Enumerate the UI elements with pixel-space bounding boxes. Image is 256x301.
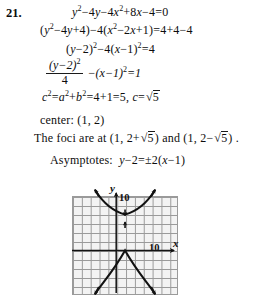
token-rparen-2: ) [228, 131, 232, 145]
token-four-6: 4 [187, 23, 193, 37]
token-minus: − [206, 131, 213, 145]
token-equals: = [127, 66, 135, 80]
token-four-2: 4 [149, 42, 155, 56]
radical-sign: √ [146, 90, 153, 104]
sqrt-5-b: √5 [213, 131, 228, 146]
token-minus: − [54, 23, 61, 37]
token-minus: − [125, 153, 132, 167]
equation-line-foci: The foci are at (1, 2+√5) and (1, 2−√5) … [34, 131, 239, 146]
sqrt-5: √5 [145, 90, 160, 105]
token-minus-3: − [105, 66, 113, 80]
token-zero: 0 [162, 5, 168, 19]
equation-line-factored: (y−2)2−4(x−1)2=4 [66, 42, 155, 57]
fraction-numerator: (y−2)2 [46, 59, 83, 73]
token-rparen: ) [100, 113, 104, 127]
token-period: . [236, 131, 239, 145]
equation-line-standard-form: (y−2)2 4 −(x−1)2=1 [44, 59, 141, 88]
token-comma: , [126, 90, 129, 104]
token-one-2: 1 [135, 66, 141, 80]
token-minus-2: − [87, 66, 95, 80]
token-colon: : [109, 153, 113, 167]
hyperbola-lower-branch [95, 251, 154, 294]
token-rparen: ) [155, 131, 159, 145]
standard-form-remainder: −(x−1)2=1 [87, 66, 141, 81]
token-plus: + [73, 23, 80, 37]
foci-sentence-lead: The foci are at [34, 131, 107, 145]
token-exp2: 2 [76, 57, 80, 66]
fraction-y-minus-2-squared-over-4: (y−2)2 4 [46, 59, 83, 88]
problem-number: 21. [6, 6, 22, 21]
label-center: center [40, 113, 71, 127]
fraction-denominator: 4 [59, 74, 71, 88]
token-minus: − [76, 42, 83, 56]
token-plusminus: ± [145, 153, 152, 167]
token-plus: + [133, 131, 140, 145]
token-equals: = [52, 90, 59, 104]
token-equals-3: = [113, 90, 120, 104]
token-rparen: ) [181, 153, 185, 167]
token-equals: = [142, 42, 149, 56]
token-and: and [162, 131, 180, 145]
equation-line-c-value: c2=a2+b2=4+1=5, c=√5 [42, 90, 160, 105]
token-minus-2: − [168, 153, 175, 167]
radicand: 5 [153, 90, 160, 104]
token-comma-2: , [194, 131, 197, 145]
y-axis-label: y [110, 182, 115, 194]
label-asymptotes: Asymptotes [50, 153, 109, 167]
radical-sign-2: √ [214, 131, 221, 145]
token-equals-4: = [138, 90, 145, 104]
token-plus-2: + [100, 90, 107, 104]
token-comma: , [120, 131, 123, 145]
equation-line-given: y2−4y−4x2+8x−4=0 [72, 5, 168, 20]
x-axis-scale-label: 10 [149, 242, 160, 253]
token-colon: : [71, 113, 75, 127]
equation-line-center: center: (1, 2) [40, 113, 104, 128]
equation-line-complete-square: (y2−4y+4)−4(x2−2x+1)=4+4−4 [40, 23, 193, 38]
token-minus-4: − [180, 23, 187, 37]
hyperbola-graph: y x 10 10 [70, 193, 180, 296]
y-axis-scale-label: 10 [119, 192, 130, 203]
token-minus-3: − [142, 5, 149, 19]
radicand: 5 [148, 131, 155, 145]
token-minus-2: − [90, 23, 97, 37]
token-plus-2: + [136, 23, 143, 37]
token-equals: = [138, 153, 145, 167]
x-axis-label: x [173, 237, 179, 249]
lower-branch-arrowheads [95, 287, 155, 294]
radicand-2: 5 [221, 131, 228, 145]
equation-line-asymptotes: Asymptotes: y−2=±2(x−1) [50, 153, 185, 168]
token-comma: , [88, 113, 91, 127]
radical-sign: √ [141, 131, 148, 145]
graph-drawing [70, 193, 180, 296]
worked-solution-page: 21. y2−4y−4x2+8x−4=0 (y2−4y+4)−4(x2−2x+1… [0, 0, 256, 301]
sqrt-5-a: √5 [140, 131, 155, 146]
token-minus: − [82, 5, 89, 19]
